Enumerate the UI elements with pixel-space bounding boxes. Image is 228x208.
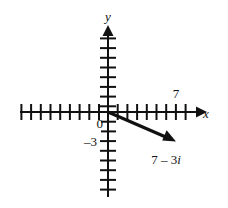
complex-plane-plot: x y 0 –3 7 7 – 3i: [0, 0, 228, 208]
origin-label: 0: [97, 116, 104, 131]
x-tick-label-7: 7: [173, 86, 180, 101]
vector-label-imaginary-unit: i: [177, 152, 181, 167]
x-axis-label: x: [202, 106, 209, 121]
y-tick-label-negative-3: –3: [83, 134, 97, 149]
y-axis-label: y: [103, 9, 111, 24]
vector-label-real: 7 – 3: [151, 152, 177, 167]
vector-arrowhead: [162, 130, 176, 141]
complex-plane-figure: x y 0 –3 7 7 – 3i: [0, 0, 228, 208]
y-axis-arrowhead: [103, 25, 114, 36]
vector-label: 7 – 3i: [151, 152, 181, 167]
